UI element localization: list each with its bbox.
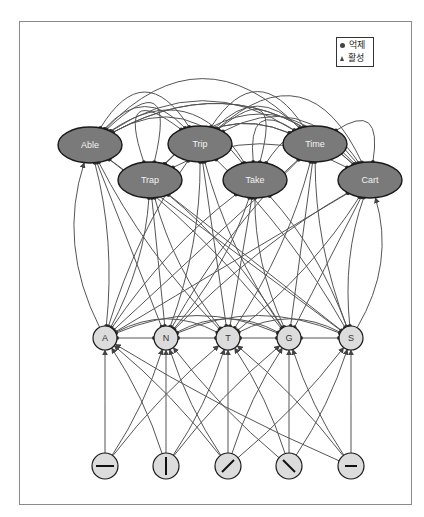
word-node-cart: Cart xyxy=(338,162,402,198)
legend-inhibit-label: 억제 xyxy=(349,39,365,52)
feature-letter-edge xyxy=(170,349,221,455)
word-node-label: Able xyxy=(81,140,99,150)
feature-node-backslash xyxy=(276,453,302,479)
word-node-label: Trap xyxy=(141,175,159,185)
word-node-label: Cart xyxy=(361,175,379,185)
letter-node-S: S xyxy=(339,326,363,350)
feature-node-slash xyxy=(215,453,241,479)
word-node-label: Trip xyxy=(192,139,207,149)
word-node-time: Time xyxy=(283,126,347,162)
inhibit-dot-icon xyxy=(340,43,345,48)
letter-node-T: T xyxy=(216,326,240,350)
letter-letter-edge xyxy=(116,316,278,334)
network-nodes: AbleTripTimeTrapTakeCartANTGS xyxy=(58,126,402,479)
legend-item-activate: 활성 xyxy=(340,52,373,65)
interactive-activation-network-diagram: AbleTripTimeTrapTakeCartANTGS xyxy=(0,0,424,517)
letter-word-activation-edge xyxy=(74,163,100,328)
feature-node-horizontal xyxy=(92,453,118,479)
feature-letter-edge xyxy=(238,348,344,458)
feature-letter-edge xyxy=(296,349,347,455)
feature-letter-edge xyxy=(235,348,286,454)
feature-node-short-horizontal xyxy=(338,453,364,479)
word-letter-edge xyxy=(270,196,347,327)
letter-word-activation-edge xyxy=(357,198,382,328)
feature-letter-edge xyxy=(115,344,339,461)
letter-node-label: T xyxy=(225,333,231,343)
feature-letter-edge xyxy=(112,348,163,454)
feature-node-vertical xyxy=(153,453,179,479)
word-node-take: Take xyxy=(223,162,287,198)
activate-triangle-icon xyxy=(340,56,344,61)
legend-item-inhibit: 억제 xyxy=(340,39,373,52)
word-node-trip: Trip xyxy=(168,126,232,162)
legend: 억제 활성 xyxy=(336,37,374,67)
letter-node-label: N xyxy=(163,333,170,343)
legend-activate-label: 활성 xyxy=(348,52,364,65)
word-letter-edge xyxy=(168,195,282,328)
letter-node-A: A xyxy=(93,326,117,350)
letter-node-label: G xyxy=(285,333,292,343)
word-node-able: Able xyxy=(58,127,122,163)
feature-letter-edge xyxy=(232,348,283,454)
letter-node-label: A xyxy=(102,333,108,343)
word-letter-edge xyxy=(348,198,364,327)
feature-letter-edge xyxy=(293,349,344,455)
feature-letter-edge xyxy=(173,348,279,458)
letter-node-G: G xyxy=(277,326,301,350)
letter-node-label: S xyxy=(348,333,354,343)
letter-node-N: N xyxy=(154,326,178,350)
word-node-label: Take xyxy=(245,175,264,185)
word-node-trap: Trap xyxy=(118,162,182,198)
word-node-label: Time xyxy=(305,139,325,149)
